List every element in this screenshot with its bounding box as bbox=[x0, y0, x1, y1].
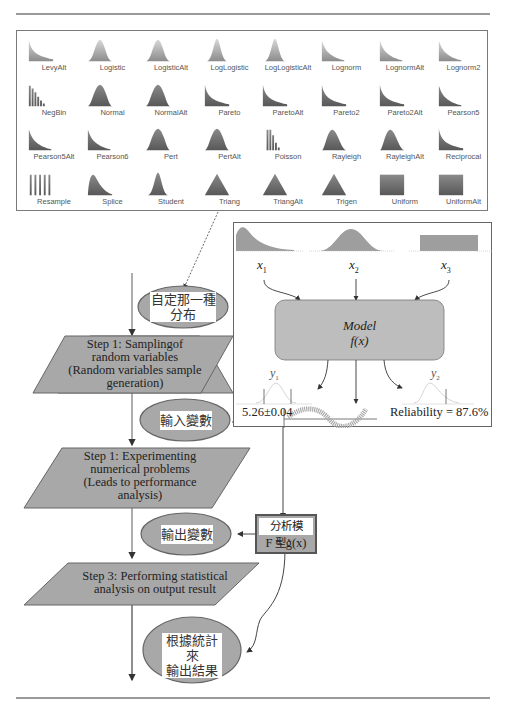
choose-distribution-line2: 分布 bbox=[150, 307, 216, 322]
output-label-y1: y1 bbox=[270, 366, 279, 382]
input-label-x3: x3 bbox=[441, 257, 451, 275]
output-variable-label: 輸出變數 bbox=[161, 525, 213, 544]
analysis-model-formula: F = g(x) bbox=[257, 536, 315, 551]
step3-line2: analysis on output result bbox=[55, 583, 255, 596]
y2-distribution-icon bbox=[414, 383, 459, 403]
y1-distribution-icon bbox=[256, 383, 296, 403]
model-function: f(x) bbox=[275, 333, 444, 349]
analysis-model-title: 分析模型： bbox=[259, 518, 313, 535]
x2-distribution-icon bbox=[319, 229, 384, 251]
step3-stats-text: Step 3: Performing statistical analysis … bbox=[55, 570, 255, 596]
input-variable-label: 輸入變數 bbox=[160, 411, 212, 430]
step2-experiment-text: Step 1: Experimenting numerical problems… bbox=[40, 450, 240, 502]
model-panel: x1 x2 x3 Model f(x) y1 y2 5.26±0.04 Reli… bbox=[233, 222, 492, 427]
choose-distribution-line1: 自定那一種 bbox=[150, 292, 216, 307]
choose-distribution-label: 自定那一種 分布 bbox=[150, 292, 216, 322]
model-title: Model bbox=[275, 318, 444, 334]
y1-result: 5.26±0.04 bbox=[242, 405, 293, 420]
analysis-model-box: 分析模型： F = g(x) bbox=[255, 514, 317, 554]
input-label-x2: x2 bbox=[349, 257, 359, 275]
final-result-label: 根據統計來 輸出結果 bbox=[162, 633, 222, 678]
final-result-line2: 輸出結果 bbox=[162, 663, 222, 678]
step1-line4: generation) bbox=[40, 377, 230, 390]
output-label-y2: y2 bbox=[431, 366, 440, 382]
x1-distribution-icon bbox=[236, 227, 294, 251]
step1-sampling-text: Step 1: Samplingof random variables (Ran… bbox=[40, 338, 230, 390]
final-result-line1: 根據統計來 bbox=[162, 633, 222, 663]
input-label-x1: x1 bbox=[257, 257, 267, 275]
y2-result: Reliability = 87.6% bbox=[390, 405, 488, 420]
step2-line4: analysis) bbox=[40, 489, 240, 502]
x3-distribution-icon bbox=[420, 235, 478, 251]
response-wave-icon bbox=[284, 409, 377, 428]
